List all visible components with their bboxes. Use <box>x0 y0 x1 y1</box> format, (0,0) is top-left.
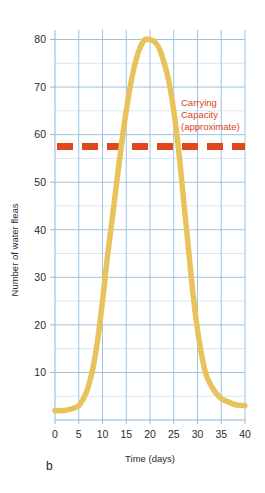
carrying-capacity-label-line-3: (approximate) <box>181 121 240 132</box>
panel-label: b <box>46 459 53 473</box>
x-tick-label: 15 <box>120 428 132 440</box>
population-growth-chart: 1020304050607080 0510152025303540 Time (… <box>0 0 265 493</box>
x-tick-label: 30 <box>192 428 204 440</box>
x-axis-title: Time (days) <box>125 453 175 464</box>
x-tick-label: 20 <box>144 428 156 440</box>
x-tick-label: 5 <box>76 428 82 440</box>
x-tick-label: 35 <box>215 428 227 440</box>
x-tick-label: 10 <box>97 428 109 440</box>
y-tick-label: 80 <box>34 33 46 45</box>
carrying-capacity-label-line-2: Capacity <box>181 109 218 120</box>
y-tick-label: 40 <box>34 224 46 236</box>
y-tick-label: 30 <box>34 271 46 283</box>
y-tick-label: 70 <box>34 81 46 93</box>
x-axis-ticks: 0510152025303540 <box>52 420 251 440</box>
x-tick-label: 40 <box>239 428 251 440</box>
y-tick-label: 20 <box>34 319 46 331</box>
y-tick-label: 10 <box>34 366 46 378</box>
carrying-capacity-label-line-1: Carrying <box>181 97 217 108</box>
x-tick-label: 0 <box>52 428 58 440</box>
y-axis-ticks: 1020304050607080 <box>34 33 55 378</box>
figure-panel-b: 1020304050607080 0510152025303540 Time (… <box>0 0 265 493</box>
y-axis-title: Number of water fleas <box>9 203 20 296</box>
x-tick-label: 25 <box>168 428 180 440</box>
y-tick-label: 50 <box>34 176 46 188</box>
y-tick-label: 60 <box>34 128 46 140</box>
